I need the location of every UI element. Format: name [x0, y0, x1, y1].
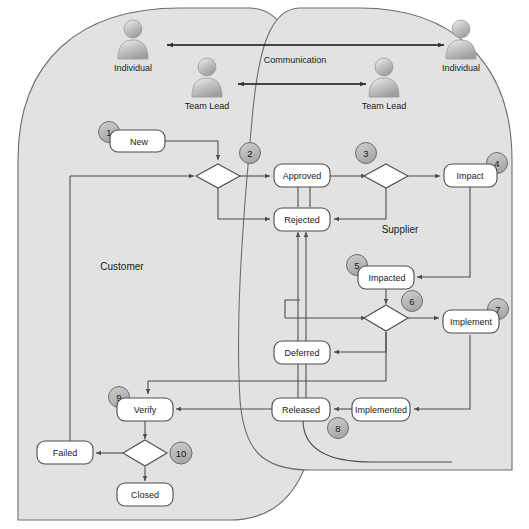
workflow-diagram-canvas: Customer Supplier Individual Team Lead T…	[0, 0, 529, 529]
node-impacted-label: Impacted	[368, 273, 405, 283]
pool-label-supplier: Supplier	[382, 224, 419, 235]
node-implement-label: Implement	[450, 317, 493, 327]
badge-6-label: 6	[409, 296, 414, 307]
badge-10-label: 10	[176, 448, 187, 459]
node-impact-label: Impact	[456, 171, 484, 181]
node-implemented-label: Implemented	[355, 405, 407, 415]
communication-label: Communication	[264, 55, 327, 65]
badge-8-label: 8	[335, 423, 340, 434]
node-rejected[interactable]: Rejected	[274, 208, 330, 231]
actor-label: Team Lead	[185, 101, 230, 111]
node-deferred[interactable]: Deferred	[274, 341, 330, 364]
node-deferred-label: Deferred	[284, 348, 319, 358]
node-verify-label: Verify	[134, 405, 157, 415]
actor-label: Individual	[442, 63, 480, 73]
actor-label: Team Lead	[362, 101, 407, 111]
node-released-label: Released	[282, 405, 320, 415]
node-approved[interactable]: Approved	[274, 164, 330, 187]
node-implemented[interactable]: Implemented	[352, 398, 410, 421]
node-closed[interactable]: Closed	[117, 483, 173, 506]
badge-2-label: 2	[247, 148, 252, 159]
pool-label-customer: Customer	[100, 261, 144, 272]
node-approved-label: Approved	[283, 171, 322, 181]
node-rejected-label: Rejected	[284, 215, 320, 225]
actor-label: Individual	[114, 63, 152, 73]
badge-3-label: 3	[363, 148, 368, 159]
node-new-label: New	[130, 137, 149, 147]
badge-5-label: 5	[354, 260, 359, 271]
node-failed[interactable]: Failed	[37, 441, 93, 464]
node-closed-label: Closed	[131, 490, 159, 500]
workflow-diagram-svg: Customer Supplier Individual Team Lead T…	[0, 0, 529, 529]
node-failed-label: Failed	[53, 448, 78, 458]
